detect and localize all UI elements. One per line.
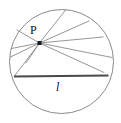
point-p-label: P (30, 24, 37, 36)
chord-line (40, 43, 113, 58)
chord-group (11, 10, 113, 77)
chord-line (40, 37, 104, 43)
geometry-figure: P l (0, 0, 121, 123)
bold-chord-l (14, 76, 109, 77)
chord-line (12, 43, 40, 49)
point-p-marker (38, 41, 42, 45)
chord-line (40, 21, 90, 43)
chord-line (40, 10, 67, 44)
chord-line (40, 43, 105, 73)
diagram-canvas (0, 0, 121, 123)
chord-l-label: l (56, 81, 59, 93)
